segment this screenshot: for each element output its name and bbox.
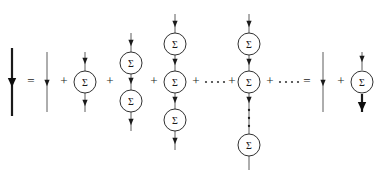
operator-plus-7: +: [337, 73, 344, 88]
sigma-label: Σ: [246, 140, 252, 151]
self-energy-node: Σ: [120, 52, 142, 74]
diagram-background: [0, 0, 379, 182]
ellipsis-dot: [217, 81, 219, 83]
vertical-ellipsis-dot: [248, 109, 250, 111]
self-energy-node: Σ: [164, 109, 186, 131]
self-energy-node: Σ: [238, 33, 260, 55]
operator-equals-2: =: [303, 73, 310, 88]
vertical-ellipsis-dot: [248, 117, 250, 119]
ellipsis-dot: [223, 81, 225, 83]
sigma-label: Σ: [172, 77, 178, 88]
operator-plus-1: +: [60, 73, 67, 88]
sigma-label: Σ: [359, 77, 365, 88]
operator-plus-5: +: [228, 73, 235, 88]
dyson-equation-diagram: ΣΣΣΣΣΣΣΣΣΣ =++++++=+: [0, 0, 379, 182]
operator-plus-2: +: [106, 73, 113, 88]
sigma-label: Σ: [246, 39, 252, 50]
sigma-label: Σ: [172, 115, 178, 126]
sigma-label: Σ: [128, 96, 134, 107]
self-energy-node: Σ: [120, 90, 142, 112]
self-energy-node: Σ: [164, 33, 186, 55]
vertical-ellipsis-dot: [248, 125, 250, 127]
operator-plus-3: +: [150, 73, 157, 88]
sigma-label: Σ: [82, 77, 88, 88]
operator-plus-4: +: [192, 73, 199, 88]
operator-equals-1: =: [27, 73, 34, 88]
ellipsis-dot: [297, 81, 299, 83]
sigma-label: Σ: [172, 39, 178, 50]
ellipsis-dot: [205, 81, 207, 83]
ellipsis-dot: [211, 81, 213, 83]
self-energy-node: Σ: [351, 71, 373, 93]
ellipsis-dot: [285, 81, 287, 83]
diagram-canvas: ΣΣΣΣΣΣΣΣΣΣ =++++++=+: [0, 0, 379, 182]
sigma-label: Σ: [128, 58, 134, 69]
ellipsis-dot: [291, 81, 293, 83]
ellipsis-dot: [279, 81, 281, 83]
sigma-label: Σ: [246, 77, 252, 88]
self-energy-node: Σ: [238, 134, 260, 156]
self-energy-node: Σ: [164, 71, 186, 93]
self-energy-node: Σ: [238, 71, 260, 93]
self-energy-node: Σ: [74, 71, 96, 93]
operator-plus-6: +: [266, 73, 273, 88]
